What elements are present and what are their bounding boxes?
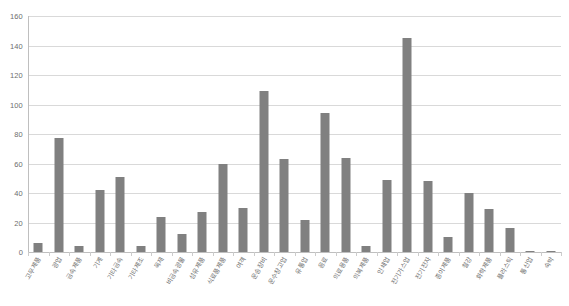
x-tick xyxy=(274,252,275,256)
bar-slot xyxy=(520,16,541,252)
bar-slot xyxy=(192,16,213,252)
bar-slot xyxy=(315,16,336,252)
x-tick xyxy=(192,252,193,256)
x-tick xyxy=(172,252,173,256)
x-tick xyxy=(295,252,296,256)
x-tick xyxy=(561,252,562,256)
x-tick xyxy=(356,252,357,256)
bar-slot xyxy=(541,16,562,252)
y-tick-label: 100 xyxy=(10,100,23,109)
bar-slot xyxy=(356,16,377,252)
y-tick-label: 0 xyxy=(19,248,23,257)
bar-slot xyxy=(295,16,316,252)
bar[interactable] xyxy=(259,91,268,252)
bar-slot xyxy=(377,16,398,252)
x-tick xyxy=(131,252,132,256)
bar[interactable] xyxy=(505,228,514,252)
bar-slot xyxy=(438,16,459,252)
y-tick-label: 60 xyxy=(14,159,23,168)
bar-slot xyxy=(28,16,49,252)
bar[interactable] xyxy=(403,38,412,252)
bar[interactable] xyxy=(321,113,330,252)
bar-slot xyxy=(336,16,357,252)
bar-slot xyxy=(418,16,439,252)
y-tick-label: 160 xyxy=(10,12,23,21)
x-tick xyxy=(438,252,439,256)
x-tick xyxy=(418,252,419,256)
x-tick xyxy=(397,252,398,256)
bar[interactable] xyxy=(444,237,453,252)
y-tick-label: 40 xyxy=(14,189,23,198)
bar[interactable] xyxy=(485,209,494,252)
x-tick xyxy=(315,252,316,256)
bar[interactable] xyxy=(116,177,125,252)
y-tick-label: 140 xyxy=(10,41,23,50)
bar[interactable] xyxy=(177,234,186,252)
x-tick xyxy=(151,252,152,256)
y-axis: 020406080100120140160 xyxy=(0,0,28,252)
bar[interactable] xyxy=(300,220,309,252)
bar[interactable] xyxy=(34,243,43,252)
x-tick xyxy=(541,252,542,256)
y-tick-label: 80 xyxy=(14,130,23,139)
bar-slot xyxy=(233,16,254,252)
bar-slot xyxy=(49,16,70,252)
bar[interactable] xyxy=(239,208,248,252)
bar-chart: 020406080100120140160 고무제품광업금속제품기계기타금속기타… xyxy=(0,0,569,306)
bar[interactable] xyxy=(464,193,473,252)
bar[interactable] xyxy=(198,212,207,252)
x-tick xyxy=(90,252,91,256)
bar-slot xyxy=(213,16,234,252)
x-tick xyxy=(28,252,29,256)
x-tick xyxy=(49,252,50,256)
bar-slot xyxy=(131,16,152,252)
bar[interactable] xyxy=(218,164,227,253)
x-tick xyxy=(233,252,234,256)
bar-slot xyxy=(459,16,480,252)
bar-slot xyxy=(500,16,521,252)
x-tick xyxy=(254,252,255,256)
bar-slot xyxy=(172,16,193,252)
x-tick xyxy=(213,252,214,256)
bar[interactable] xyxy=(341,158,350,252)
x-tick xyxy=(479,252,480,256)
x-tick xyxy=(459,252,460,256)
bar[interactable] xyxy=(157,217,166,252)
x-axis: 고무제품광업금속제품기계기타금속기타제조목재비금속광물섬유제품식료품제품여객운송… xyxy=(28,256,561,306)
bar[interactable] xyxy=(95,190,104,252)
x-tick xyxy=(520,252,521,256)
y-tick-label: 120 xyxy=(10,71,23,80)
bar-slot xyxy=(274,16,295,252)
bar-slot xyxy=(69,16,90,252)
bar[interactable] xyxy=(423,181,432,252)
bar[interactable] xyxy=(280,159,289,252)
bar-slot xyxy=(151,16,172,252)
bar[interactable] xyxy=(382,180,391,252)
x-tick xyxy=(377,252,378,256)
x-tick xyxy=(69,252,70,256)
x-tick xyxy=(336,252,337,256)
bar-slot xyxy=(110,16,131,252)
y-tick-label: 20 xyxy=(14,218,23,227)
x-tick xyxy=(500,252,501,256)
bar[interactable] xyxy=(54,138,63,252)
x-tick xyxy=(110,252,111,256)
bars-layer xyxy=(28,16,561,252)
bar-slot xyxy=(90,16,111,252)
bar-slot xyxy=(479,16,500,252)
bar-slot xyxy=(254,16,275,252)
bar-slot xyxy=(397,16,418,252)
